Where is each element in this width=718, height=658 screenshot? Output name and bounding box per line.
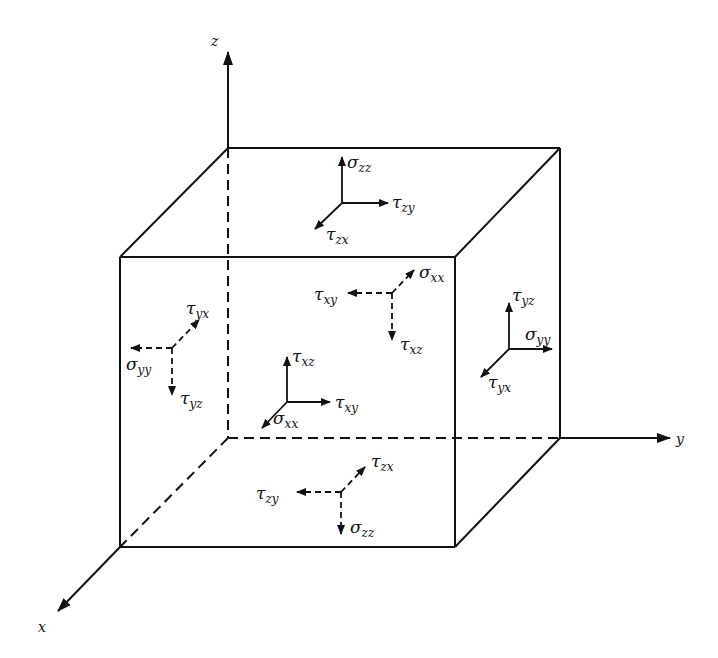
- label-tau-yx-left: τyx: [186, 298, 209, 321]
- bottom-face-stresses: τzx τzy σzz: [256, 451, 394, 540]
- label-tau-yz-left: τyz: [180, 388, 203, 411]
- x-axis-label: x: [38, 619, 46, 635]
- label-tau-xy-front: τxy: [335, 392, 358, 415]
- label-tau-yz-right: τyz: [512, 285, 535, 308]
- label-sigma-yy-left: σyy: [126, 354, 151, 377]
- cube-visible-edges: [120, 148, 560, 547]
- back-face-stresses: σxx τxy τxz: [314, 262, 444, 357]
- label-sigma-yy-right: σyy: [525, 324, 550, 347]
- front-face-stresses: τxz τxy σxx: [262, 346, 358, 431]
- stress-cube-diagram: z y x σzz τzy τzx σxx τxy τxz: [0, 0, 718, 658]
- x-axis: [58, 547, 120, 611]
- label-tau-zx-top: τzx: [326, 224, 349, 247]
- left-face-stresses: τyx σyy τyz: [126, 298, 209, 411]
- label-tau-zy-bottom: τzy: [256, 483, 279, 506]
- label-sigma-zz-top: σzz: [347, 152, 372, 175]
- z-axis-label: z: [210, 33, 219, 49]
- label-sigma-xx-front: σxx: [273, 408, 298, 431]
- label-sigma-zz-bottom: σzz: [350, 517, 375, 540]
- label-tau-xz-back: τxz: [400, 334, 423, 357]
- label-tau-yx-right: τyx: [488, 372, 511, 395]
- label-tau-xz-front: τxz: [292, 346, 315, 369]
- label-tau-xy-back: τxy: [314, 284, 337, 307]
- label-tau-zy-top: τzy: [392, 192, 415, 215]
- cube-hidden-edges: [120, 148, 560, 547]
- top-face-stresses: σzz τzy τzx: [315, 152, 415, 247]
- label-sigma-xx-back: σxx: [419, 262, 444, 285]
- right-face-stresses: τyz σyy τyx: [481, 285, 552, 395]
- label-tau-zx-bottom: τzx: [371, 451, 394, 474]
- coordinate-axes: z y x: [38, 33, 685, 635]
- y-axis-label: y: [675, 431, 685, 447]
